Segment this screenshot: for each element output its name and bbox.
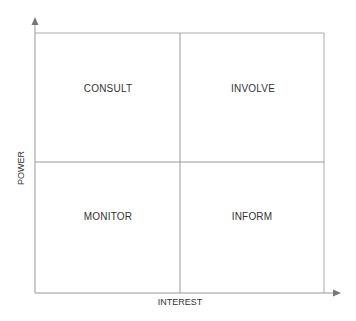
y-axis-arrow-icon <box>32 17 39 25</box>
quadrant-monitor: MONITOR <box>84 211 132 222</box>
quadrant-involve: INVOLVE <box>231 83 275 94</box>
grid-canvas <box>0 0 356 321</box>
x-axis-arrow-icon <box>333 290 341 297</box>
quadrant-consult: CONSULT <box>84 83 132 94</box>
x-axis-label: INTEREST <box>158 297 203 307</box>
y-axis-label: POWER <box>16 151 26 185</box>
quadrant-inform: INFORM <box>232 211 273 222</box>
